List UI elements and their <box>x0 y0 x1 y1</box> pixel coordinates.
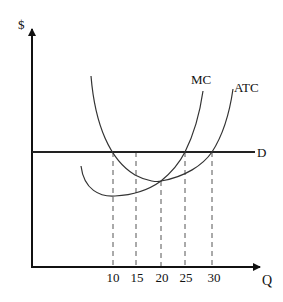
x-tick-label: 25 <box>180 270 193 285</box>
mc-label: MC <box>191 72 211 87</box>
x-axis-label: Q <box>262 273 272 288</box>
x-tick-labels: 10 15 20 25 30 <box>107 270 221 285</box>
x-tick-label: 30 <box>208 270 221 285</box>
x-tick-label: 20 <box>156 270 169 285</box>
y-axis-label: $ <box>18 17 25 32</box>
demand-label: D <box>257 145 266 160</box>
x-tick-label: 15 <box>131 270 144 285</box>
cost-curves-chart: $ Q 10 15 20 25 30 D ATC MC <box>0 0 283 302</box>
atc-label: ATC <box>234 80 259 95</box>
dashed-guides <box>113 152 212 266</box>
x-tick-label: 10 <box>107 270 120 285</box>
